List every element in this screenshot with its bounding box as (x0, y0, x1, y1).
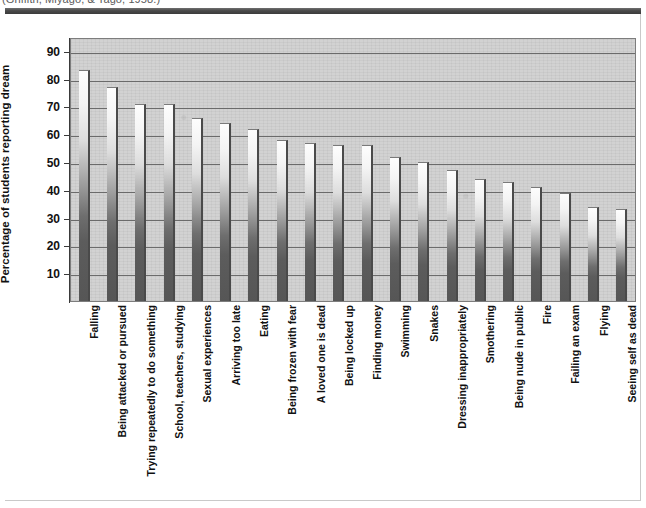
x-axis-tick-label: Snakes (428, 305, 440, 342)
gridline (71, 108, 635, 109)
x-axis-tick-label: Seeing self as dead (626, 305, 638, 402)
gridline (71, 220, 635, 221)
bar (333, 145, 344, 301)
x-axis-tick-label: Fire (541, 305, 553, 324)
x-axis-tick-label: Smothering (484, 305, 496, 363)
bar (588, 207, 599, 301)
x-axis-tick-label: Being frozen with fear (286, 305, 298, 415)
x-axis-tick-label: A loved one is dead (315, 305, 327, 403)
bar (616, 209, 627, 301)
x-axis-tick-label: Swimming (399, 305, 411, 358)
x-axis-tick-label: Failing an exam (569, 305, 581, 384)
x-axis-tick-label: Trying repeatedly to do something (145, 305, 157, 477)
y-axis-tick-label: 30 (26, 212, 60, 226)
x-axis-tick-label: School, teachers, studying (173, 305, 185, 439)
gridline (71, 136, 635, 137)
x-axis-tick-label: Being attacked or pursued (116, 305, 128, 437)
gridline (71, 164, 635, 165)
bar (560, 193, 571, 301)
figure-citation: (Griffith, Miyago, & Tago, 1958.) (2, 0, 160, 5)
gridline (71, 192, 635, 193)
figure-container: Percentage of students reporting dream 1… (5, 14, 641, 501)
gridline (71, 53, 635, 54)
bar (503, 182, 514, 301)
y-axis-tick-label: 10 (26, 267, 60, 281)
bar (248, 129, 259, 301)
bar (531, 187, 542, 301)
y-axis-tick-label: 80 (26, 73, 60, 87)
x-axis-tick-label: Sexual experiences (201, 305, 213, 402)
y-axis-tick-label: 40 (26, 184, 60, 198)
bar (447, 170, 458, 301)
x-axis-tick-label: Eating (258, 305, 270, 337)
x-axis-tick-label: Being nude in public (513, 305, 525, 408)
bar (475, 179, 486, 301)
bar (418, 162, 429, 301)
plot-area (70, 38, 636, 302)
gridline (71, 275, 635, 276)
x-axis-tick-label: Being locked up (343, 305, 355, 386)
gridline (71, 247, 635, 248)
bar (220, 123, 231, 301)
y-axis-tick-label: 70 (26, 100, 60, 114)
y-axis-tick-label: 50 (26, 156, 60, 170)
y-axis-tick-label: 60 (26, 128, 60, 142)
bar (277, 140, 288, 301)
bar (79, 70, 90, 301)
y-axis-tick-label: 90 (26, 45, 60, 59)
y-axis-title: Percentage of students reporting dream (0, 42, 11, 306)
x-axis-tick-label: Falling (88, 305, 100, 339)
x-axis-tick-label: Arriving too late (230, 305, 242, 386)
bar (390, 157, 401, 302)
bar (362, 145, 373, 301)
x-axis-tick-label: Finding money (371, 305, 383, 380)
bar (107, 87, 118, 301)
bar (164, 104, 175, 301)
bar (135, 104, 146, 301)
gridline (71, 81, 635, 82)
x-axis-tick-label: Flying (598, 305, 610, 336)
bar (305, 143, 316, 301)
x-axis-tick-label-group: FallingBeing attacked or pursuedTrying r… (70, 305, 636, 505)
bar (192, 118, 203, 301)
y-axis-tick-label: 20 (26, 239, 60, 253)
x-axis-tick-label: Dressing inappropriately (456, 305, 468, 429)
